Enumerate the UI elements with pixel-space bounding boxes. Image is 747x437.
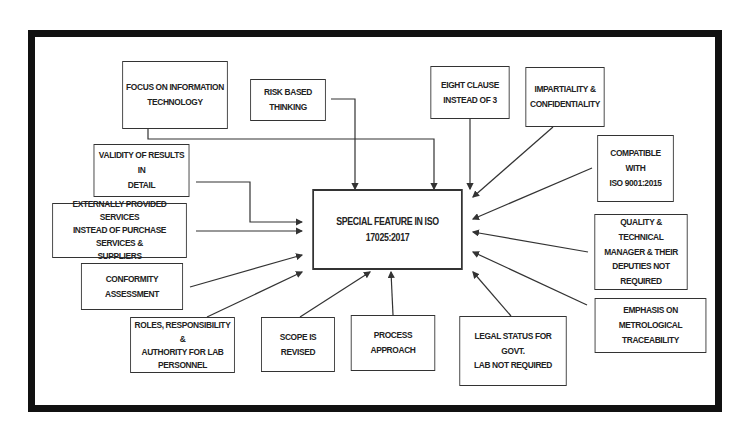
node-label: VALIDITY OF RESULTS IN DETAIL: [96, 148, 187, 192]
node-quality-manager: QUALITY & TECHNICAL MANAGER & THEIR DEPU…: [594, 214, 687, 290]
node-focus-it: FOCUS ON INFORMATION TECHNOLOGY: [122, 61, 228, 129]
node-process: PROCESS APPROACH: [351, 315, 435, 371]
node-validity: VALIDITY OF RESULTS IN DETAIL: [94, 144, 190, 197]
node-label: EIGHT CLAUSE INSTEAD OF 3: [441, 78, 499, 107]
node-label: SCOPE IS REVISED: [264, 330, 333, 359]
node-label: IMPARTIALITY & CONFIDENTIALITY: [530, 82, 600, 111]
node-risk-based: RISK BASED THINKING: [250, 79, 326, 121]
node-conformity: CONFORMITY ASSESSMENT: [81, 263, 183, 310]
node-eight-clause: EIGHT CLAUSE INSTEAD OF 3: [430, 66, 509, 119]
node-compatible: COMPATIBLE WITH ISO 9001:2015: [597, 135, 674, 202]
node-label: COMPATIBLE WITH ISO 9001:2015: [600, 146, 671, 190]
node-roles: ROLES, RESPONSIBILITY & AUTHORITY FOR LA…: [130, 317, 235, 373]
node-center-special-feature: SPECIAL FEATURE IN ISO 17025:2017: [312, 189, 462, 270]
node-metrological: EMPHASIS ON METROLOGICAL TRACEABILITY: [595, 298, 707, 353]
center-label: SPECIAL FEATURE IN ISO 17025:2017: [316, 214, 459, 245]
node-impartiality: IMPARTIALITY & CONFIDENTIALITY: [525, 67, 604, 127]
node-label: PROCESS APPROACH: [353, 328, 432, 357]
node-label: QUALITY & TECHNICAL MANAGER & THEIR DEPU…: [597, 215, 685, 289]
node-label: RISK BASED THINKING: [264, 85, 312, 114]
node-scope: SCOPE IS REVISED: [261, 317, 335, 372]
node-legal-status: LEGAL STATUS FOR GOVT. LAB NOT REQUIRED: [459, 316, 566, 386]
node-label: FOCUS ON INFORMATION TECHNOLOGY: [126, 80, 224, 109]
node-label: ROLES, RESPONSIBILITY & AUTHORITY FOR LA…: [133, 318, 232, 371]
node-externally: EXTERNALLY PROVIDED SERVICES INSTEAD OF …: [52, 203, 187, 258]
node-label: LEGAL STATUS FOR GOVT. LAB NOT REQUIRED: [462, 329, 564, 373]
node-label: CONFORMITY ASSESSMENT: [84, 272, 181, 301]
node-label: EXTERNALLY PROVIDED SERVICES INSTEAD OF …: [55, 198, 184, 262]
node-label: EMPHASIS ON METROLOGICAL TRACEABILITY: [597, 303, 703, 347]
